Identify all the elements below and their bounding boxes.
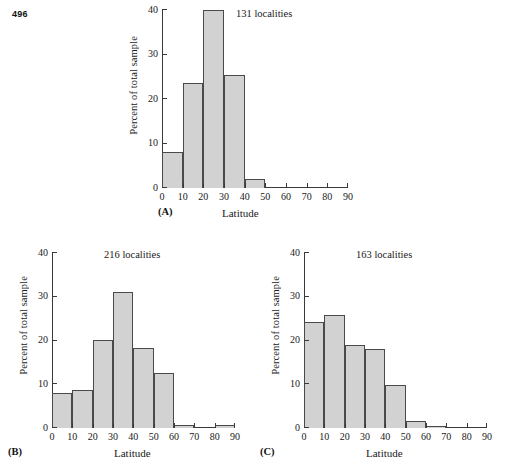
panel-a-y-tick-label-10: 10 xyxy=(148,138,158,148)
panel-a-x-tick-label-0: 0 xyxy=(160,192,165,202)
panel-c-y-tick-label-0: 0 xyxy=(295,423,300,433)
panel-c-y-tick-10: 10 xyxy=(304,383,309,384)
panel-b-x-tick-20 xyxy=(93,423,94,428)
panel-a-x-tick-label-50: 50 xyxy=(260,192,270,202)
panel-a-bar-10-20 xyxy=(183,83,204,188)
panel-b-x-axis-label: Latitude xyxy=(114,447,151,459)
panel-b-x-tick-label-20: 20 xyxy=(88,432,98,442)
panel-b-bar-50-60 xyxy=(154,373,174,428)
panel-a-x-axis-label: Latitude xyxy=(222,207,259,219)
panel-a-x-tick-label-80: 80 xyxy=(322,192,332,202)
panel-a-x-tick-70 xyxy=(307,183,308,188)
panel-a-bar-30-40 xyxy=(224,75,245,188)
panel-c-y-tick-20: 20 xyxy=(304,340,309,341)
panel-b-x-tick-label-90: 90 xyxy=(230,432,240,442)
panel-a-x-tick-labels: 0102030405060708090 xyxy=(162,189,348,203)
panel-c-bar-20-30 xyxy=(345,345,365,428)
panel-a-x-tick-label-60: 60 xyxy=(281,192,291,202)
panel-c-y-tick-0: 0 xyxy=(304,427,309,428)
panel-a-x-tick-20 xyxy=(203,183,204,188)
panel-c-bars xyxy=(304,253,487,428)
panel-c-bar-30-40 xyxy=(365,349,385,428)
panel-c-x-tick-labels: 0102030405060708090 xyxy=(304,429,487,443)
panel-c-x-tick-40 xyxy=(385,423,386,428)
panel-c-x-tick-label-20: 20 xyxy=(340,432,350,442)
panel-c-x-tick-30 xyxy=(365,423,366,428)
panel-a-x-tick-label-30: 30 xyxy=(219,192,229,202)
panel-a-x-tick-label-20: 20 xyxy=(198,192,208,202)
panel-c-bar-0-10 xyxy=(304,322,324,428)
panel-b-y-tick-label-40: 40 xyxy=(38,248,48,258)
panel-a-y-tick-10: 10 xyxy=(162,143,167,144)
panel-c-bar-60-70 xyxy=(426,426,446,428)
panel-a-plot-area: 0102030405060708090 010203040 xyxy=(162,10,348,188)
panel-b-y-tick-20: 20 xyxy=(52,340,57,341)
panel-b-x-tick-30 xyxy=(113,423,114,428)
panel-a-bar-0-10 xyxy=(162,152,183,188)
panel-a-x-tick-50 xyxy=(265,183,266,188)
panel-b-bar-10-20 xyxy=(72,390,92,428)
panel-c-x-tick-label-10: 10 xyxy=(319,432,329,442)
panel-b-bar-80-90 xyxy=(215,425,235,428)
panel-b-y-tick-10: 10 xyxy=(52,383,57,384)
panel-a-y-tick-20: 20 xyxy=(162,98,167,99)
panel-b-bars xyxy=(52,253,235,428)
panel-a-tag: (A) xyxy=(158,206,173,217)
panel-a-x-tick-60 xyxy=(286,183,287,188)
panel-a-y-tick-40: 40 xyxy=(162,9,167,10)
panel-c-bar-40-50 xyxy=(385,385,405,428)
panel-b-y-tick-30: 30 xyxy=(52,296,57,297)
panel-c-x-tick-80 xyxy=(467,423,468,428)
panel-b-x-tick-60 xyxy=(174,423,175,428)
panel-b-x-tick-label-50: 50 xyxy=(149,432,159,442)
panel-b-y-tick-40: 40 xyxy=(52,252,57,253)
panel-b-x-tick-40 xyxy=(133,423,134,428)
panel-b-x-tick-label-60: 60 xyxy=(169,432,179,442)
panel-b-bar-0-10 xyxy=(52,393,72,428)
panel-c-y-tick-40: 40 xyxy=(304,252,309,253)
panel-c-y-tick-label-20: 20 xyxy=(290,335,300,345)
histogram-panel-b: 216 localities Percent of total sample 0… xyxy=(6,244,252,470)
panel-c-y-tick-label-30: 30 xyxy=(290,291,300,301)
panel-c-tag: (C) xyxy=(260,446,275,457)
panel-a-bar-20-30 xyxy=(203,10,224,188)
panel-b-x-tick-90 xyxy=(234,423,235,428)
panel-a-y-tick-label-40: 40 xyxy=(148,5,158,15)
panel-b-bar-40-50 xyxy=(133,348,153,428)
panel-c-y-tick-30: 30 xyxy=(304,296,309,297)
panel-a-x-tick-label-40: 40 xyxy=(240,192,250,202)
panel-a-y-tick-label-30: 30 xyxy=(148,49,158,59)
panel-b-x-tick-label-40: 40 xyxy=(128,432,138,442)
panel-c-bar-10-20 xyxy=(324,315,344,428)
panel-c-x-tick-label-0: 0 xyxy=(302,432,307,442)
panel-c-x-tick-20 xyxy=(345,423,346,428)
histogram-panel-c: 163 localities Percent of total sample 0… xyxy=(258,244,504,470)
panel-b-bar-60-70 xyxy=(174,425,194,428)
panel-a-bar-40-50 xyxy=(245,179,266,188)
panel-c-x-tick-label-30: 30 xyxy=(360,432,370,442)
panel-b-x-tick-70 xyxy=(194,423,195,428)
panel-c-x-tick-label-40: 40 xyxy=(380,432,390,442)
panel-c-x-tick-label-80: 80 xyxy=(462,432,472,442)
panel-c-x-tick-90 xyxy=(486,423,487,428)
panel-b-x-tick-label-70: 70 xyxy=(189,432,199,442)
panel-b-x-tick-50 xyxy=(154,423,155,428)
panel-c-plot-area: 0102030405060708090 010203040 xyxy=(304,253,487,428)
panel-c-x-tick-label-70: 70 xyxy=(441,432,451,442)
panel-a-y-tick-30: 30 xyxy=(162,54,167,55)
panel-b-y-axis-label: Percent of total sample xyxy=(18,276,29,375)
panel-c-bar-50-60 xyxy=(406,421,426,428)
panel-b-x-tick-label-30: 30 xyxy=(108,432,118,442)
panel-a-x-tick-10 xyxy=(183,183,184,188)
panel-c-x-tick-label-50: 50 xyxy=(401,432,411,442)
panel-b-x-tick-10 xyxy=(72,423,73,428)
panel-a-x-tick-30 xyxy=(224,183,225,188)
panel-b-y-tick-0: 0 xyxy=(52,427,57,428)
panel-c-x-tick-10 xyxy=(324,423,325,428)
panel-b-y-tick-label-20: 20 xyxy=(38,335,48,345)
panel-a-x-tick-80 xyxy=(327,183,328,188)
panel-a-x-tick-40 xyxy=(245,183,246,188)
panel-c-x-tick-60 xyxy=(426,423,427,428)
panel-b-x-tick-label-10: 10 xyxy=(67,432,77,442)
panel-a-x-tick-label-70: 70 xyxy=(302,192,312,202)
